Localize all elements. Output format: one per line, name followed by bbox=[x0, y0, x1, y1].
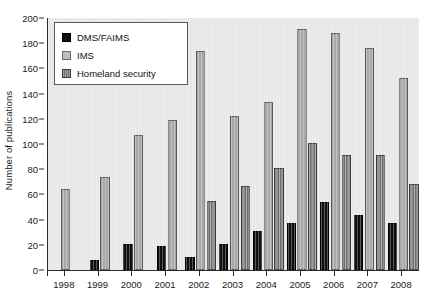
y-tick-label: 180 bbox=[22, 38, 38, 49]
x-tick-mark bbox=[401, 271, 402, 276]
y-tick-mark bbox=[39, 93, 44, 94]
bar-group bbox=[250, 18, 284, 270]
bar-ims-1998 bbox=[61, 189, 70, 270]
y-tick-mark bbox=[39, 68, 44, 69]
x-tick-mark bbox=[64, 271, 65, 276]
y-tick-mark bbox=[39, 219, 44, 220]
legend-swatch-homeland-security-icon bbox=[62, 69, 71, 78]
y-axis-title-text: Number of publications bbox=[4, 90, 15, 189]
legend-label-dms-faims: DMS/FAIMS bbox=[77, 32, 129, 43]
x-tick-mark bbox=[334, 271, 335, 276]
x-tick-label-2006: 2006 bbox=[323, 279, 344, 290]
bar-dms-faims-2008 bbox=[388, 223, 397, 270]
x-tick-label-2002: 2002 bbox=[188, 279, 209, 290]
x-axis-origin-tick bbox=[47, 271, 48, 276]
bar-group bbox=[318, 18, 352, 270]
y-axis-ticks: 020406080100120140160180200 bbox=[18, 0, 44, 302]
bar-ims-2006 bbox=[331, 33, 340, 270]
x-tick-label-2003: 2003 bbox=[222, 279, 243, 290]
bar-dms-faims-2003 bbox=[219, 244, 228, 270]
bar-dms-faims-1999 bbox=[90, 260, 99, 270]
legend-item-dms-faims: DMS/FAIMS bbox=[62, 28, 181, 46]
x-tick-label-2001: 2001 bbox=[154, 279, 175, 290]
x-tick-mark bbox=[199, 271, 200, 276]
y-tick-mark bbox=[39, 118, 44, 119]
bar-dms-faims-2002 bbox=[185, 257, 194, 270]
x-tick-label-2005: 2005 bbox=[289, 279, 310, 290]
bar-homeland-security-2008 bbox=[409, 184, 418, 270]
bar-homeland-security-2003 bbox=[241, 186, 250, 270]
bar-dms-faims-2001 bbox=[157, 246, 166, 270]
x-tick-label-1999: 1999 bbox=[87, 279, 108, 290]
y-tick-label: 80 bbox=[27, 164, 38, 175]
y-tick-label: 60 bbox=[27, 189, 38, 200]
x-axis: 1998199920002001200220032004200520062007… bbox=[47, 271, 419, 302]
y-tick-label: 120 bbox=[22, 113, 38, 124]
y-tick-mark bbox=[39, 169, 44, 170]
bar-dms-faims-2007 bbox=[354, 215, 363, 270]
y-tick-mark bbox=[39, 144, 44, 145]
legend-label-homeland-security: Homeland security bbox=[77, 68, 156, 79]
y-tick-mark bbox=[39, 270, 44, 271]
x-tick-mark bbox=[131, 271, 132, 276]
legend-item-ims: IMS bbox=[62, 46, 181, 64]
bar-homeland-security-2002 bbox=[207, 201, 216, 270]
x-tick-label-2007: 2007 bbox=[357, 279, 378, 290]
bar-group bbox=[352, 18, 386, 270]
y-tick-label: 160 bbox=[22, 63, 38, 74]
bar-group bbox=[284, 18, 318, 270]
bar-group bbox=[217, 18, 251, 270]
chart-legend: DMS/FAIMS IMS Homeland security bbox=[54, 22, 188, 85]
bar-dms-faims-2000 bbox=[123, 244, 132, 270]
bar-dms-faims-2004 bbox=[253, 231, 262, 270]
y-tick-label: 140 bbox=[22, 88, 38, 99]
legend-label-ims: IMS bbox=[77, 50, 94, 61]
x-tick-label-1998: 1998 bbox=[53, 279, 74, 290]
bar-group bbox=[385, 18, 419, 270]
bar-ims-2007 bbox=[365, 48, 374, 270]
x-tick-label-2008: 2008 bbox=[391, 279, 412, 290]
legend-item-homeland-security: Homeland security bbox=[62, 64, 181, 82]
y-tick-label: 20 bbox=[27, 239, 38, 250]
y-tick-mark bbox=[39, 18, 44, 19]
bar-ims-1999 bbox=[100, 177, 109, 270]
x-tick-mark bbox=[300, 271, 301, 276]
y-tick-label: 0 bbox=[33, 265, 38, 276]
legend-swatch-dms-faims-icon bbox=[62, 33, 71, 42]
bar-homeland-security-2005 bbox=[308, 143, 317, 270]
x-tick-label-2000: 2000 bbox=[121, 279, 142, 290]
bar-ims-2000 bbox=[134, 135, 143, 270]
bar-ims-2005 bbox=[297, 29, 306, 270]
bar-ims-2004 bbox=[264, 102, 273, 270]
bar-ims-2001 bbox=[168, 120, 177, 270]
y-axis-title: Number of publications bbox=[0, 0, 18, 280]
legend-swatch-ims-icon bbox=[62, 51, 71, 60]
bar-homeland-security-2004 bbox=[274, 168, 283, 270]
y-tick-label: 200 bbox=[22, 13, 38, 24]
bar-homeland-security-2006 bbox=[342, 155, 351, 270]
x-tick-label-2004: 2004 bbox=[256, 279, 277, 290]
y-tick-mark bbox=[39, 194, 44, 195]
y-tick-label: 40 bbox=[27, 214, 38, 225]
y-tick-mark bbox=[39, 43, 44, 44]
y-tick-label: 100 bbox=[22, 139, 38, 150]
bar-ims-2008 bbox=[399, 78, 408, 270]
x-tick-mark bbox=[233, 271, 234, 276]
x-tick-mark bbox=[266, 271, 267, 276]
x-tick-mark bbox=[367, 271, 368, 276]
bar-ims-2003 bbox=[230, 116, 239, 270]
bar-dms-faims-2005 bbox=[287, 223, 296, 270]
x-tick-mark bbox=[165, 271, 166, 276]
bar-dms-faims-2006 bbox=[320, 202, 329, 270]
x-tick-mark bbox=[98, 271, 99, 276]
y-tick-mark bbox=[39, 244, 44, 245]
bar-homeland-security-2007 bbox=[376, 155, 385, 270]
publications-bar-chart: Number of publications 02040608010012014… bbox=[0, 0, 426, 302]
bar-ims-2002 bbox=[196, 51, 205, 270]
